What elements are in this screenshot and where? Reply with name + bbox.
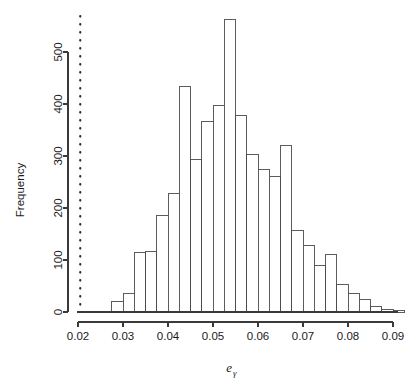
histogram-figure: 0100200300400500 0.020.030.040.050.060.0… xyxy=(0,0,418,388)
histogram-plot: 0100200300400500 0.020.030.040.050.060.0… xyxy=(0,0,418,388)
histogram-bar xyxy=(303,245,314,312)
x-axis-tick-label: 0.07 xyxy=(292,330,314,342)
histogram-bar xyxy=(359,300,370,312)
y-axis: 0100200300400500 xyxy=(52,42,68,315)
y-axis-tick-label: 200 xyxy=(52,198,64,217)
y-axis-title: Frequency xyxy=(14,163,26,218)
x-axis-tick-label: 0.05 xyxy=(202,330,224,342)
y-axis-tick-label: 500 xyxy=(52,42,64,61)
histogram-bar xyxy=(269,176,280,312)
histogram-bar xyxy=(134,253,145,312)
x-axis-tick-label: 0.02 xyxy=(67,330,89,342)
y-axis-tick-label: 100 xyxy=(52,250,64,269)
histogram-bar xyxy=(191,159,202,312)
y-axis-tick-label: 300 xyxy=(52,146,64,165)
x-axis-tick-label: 0.06 xyxy=(247,330,269,342)
histogram-bar xyxy=(326,255,337,312)
histogram-bar xyxy=(247,155,258,312)
x-axis-title-subscript: γ xyxy=(233,368,237,378)
histogram-bar xyxy=(179,86,190,312)
histogram-bar xyxy=(157,215,168,312)
x-axis-title-base: e xyxy=(226,360,232,375)
histogram-bar xyxy=(348,294,359,312)
histogram-bar xyxy=(292,231,303,312)
histogram-bar xyxy=(236,115,247,312)
histogram-bar xyxy=(123,293,134,312)
x-axis-tick-label: 0.04 xyxy=(157,330,180,342)
histogram-bar xyxy=(168,194,179,312)
x-axis-tick-label: 0.09 xyxy=(382,330,404,342)
histogram-bar xyxy=(146,251,157,312)
x-axis-tick-label: 0.08 xyxy=(337,330,359,342)
histogram-bar xyxy=(202,122,213,312)
histogram-bars xyxy=(112,20,405,312)
y-axis-tick-label: 0 xyxy=(52,309,64,315)
histogram-bar xyxy=(314,266,325,312)
histogram-bar xyxy=(281,145,292,312)
histogram-bar xyxy=(258,170,269,312)
histogram-bar xyxy=(224,20,235,312)
x-axis-tick-label: 0.03 xyxy=(112,330,134,342)
y-axis-tick-label: 400 xyxy=(52,94,64,113)
x-axis: 0.020.030.040.050.060.070.080.09 xyxy=(67,312,404,342)
histogram-bar xyxy=(112,302,123,312)
histogram-bar xyxy=(337,284,348,312)
histogram-bar xyxy=(213,105,224,312)
histogram-bar xyxy=(371,306,382,312)
x-axis-title: e γ xyxy=(226,360,237,378)
